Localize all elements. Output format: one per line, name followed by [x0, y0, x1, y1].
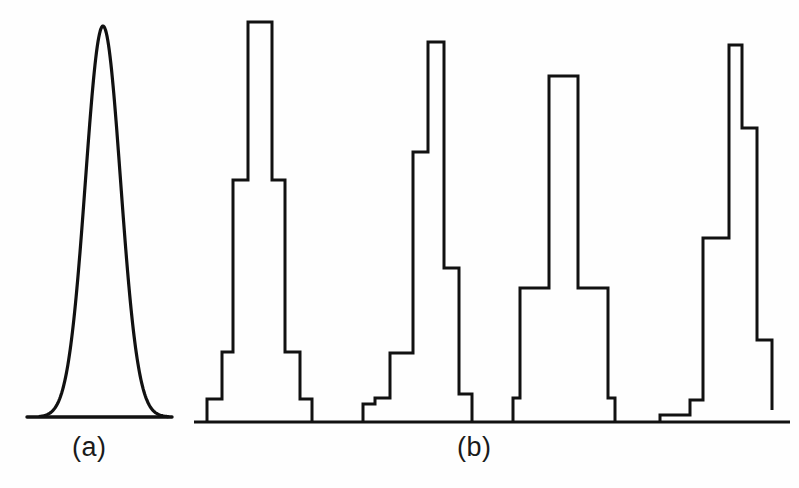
figure-container: (a) (b): [0, 0, 799, 488]
panel-label-a: (a): [72, 432, 107, 463]
figure-svg: [0, 0, 799, 488]
panel-label-b: (b): [457, 432, 492, 463]
